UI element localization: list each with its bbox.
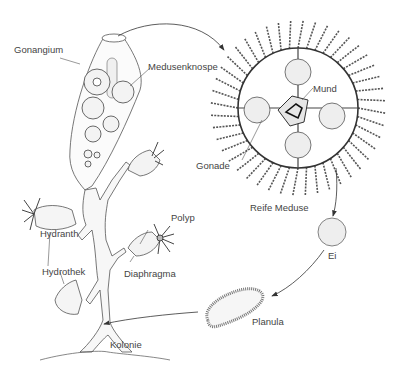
colony-roots [40,351,170,360]
mature-medusa [210,20,386,196]
label-hydrothek: Hydrothek [42,266,85,277]
label-diaphragma: Diaphragma [124,268,176,279]
label-planula: Planula [252,316,284,327]
label-gonade: Gonade [196,160,230,171]
polyp-cup [128,232,160,256]
label-hydranth: Hydranth [40,228,79,239]
hydrotheca-right [128,150,160,176]
label-ei: Ei [328,250,336,261]
label-polyp: Polyp [171,212,195,223]
life-cycle-diagram [0,0,401,383]
label-mund: Mund [313,83,337,94]
label-medusenknospe: Medusenknospe [148,61,218,72]
egg [318,218,346,246]
label-reife-meduse: Reife Meduse [250,202,309,213]
label-gonangium: Gonangium [14,44,63,55]
hydrothek-cup [55,280,82,314]
hydranth-cup [34,206,76,230]
label-kolonie: Kolonie [110,339,142,350]
